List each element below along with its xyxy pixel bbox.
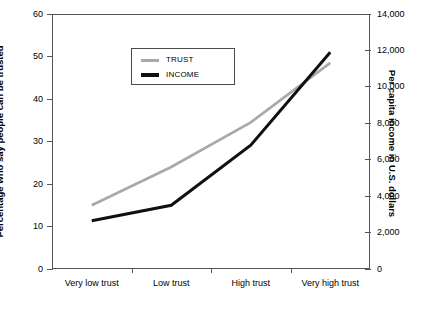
category-label: Very high trust [301,278,359,288]
right-tick-label: 14,000 [377,10,425,19]
right-tick-label: 2,000 [377,228,425,237]
right-tick-label: 12,000 [377,46,425,55]
right-tick-label: 4,000 [377,192,425,201]
legend-label-trust: TRUST [166,54,194,66]
right-tick-label: 6,000 [377,155,425,164]
left-tick-label: 30 [0,137,43,146]
left-tick-label: 40 [0,95,43,104]
legend-swatch-income-icon [141,73,159,77]
legend-label-income: INCOME [166,69,199,81]
legend-entry-income: INCOME [132,68,234,82]
left-tick-label: 20 [0,180,43,189]
left-tick-label: 60 [0,10,43,19]
plot-area: TRUST INCOME [52,14,370,269]
chart-legend: TRUST INCOME [131,48,235,85]
right-tick-label: 8,000 [377,119,425,128]
chart-figure: Percentage who say people can be trusted… [0,0,437,315]
right-tick-label: 0 [377,265,425,274]
left-tick-label: 50 [0,52,43,61]
category-label: Very low trust [65,278,119,288]
left-tick-label: 0 [0,265,43,274]
category-label: High trust [231,278,270,288]
left-tick-label: 10 [0,222,43,231]
right-tick-label: 10,000 [377,82,425,91]
legend-swatch-trust-icon [141,59,159,62]
category-label: Low trust [153,278,190,288]
legend-entry-trust: TRUST [132,53,234,67]
